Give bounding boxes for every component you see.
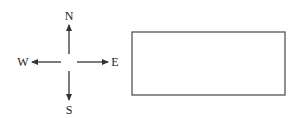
north-label: N (65, 9, 74, 23)
diagram: N S W E (0, 0, 297, 118)
south-label: S (66, 103, 73, 117)
east-label: E (111, 55, 118, 69)
empty-box (132, 32, 285, 95)
west-label: W (17, 55, 29, 69)
compass: N S W E (17, 9, 118, 117)
